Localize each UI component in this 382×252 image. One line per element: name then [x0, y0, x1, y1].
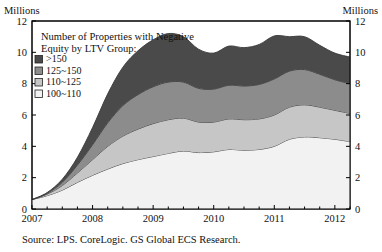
legend-label-125-150: 125~150 — [46, 65, 81, 76]
x-tick-label: 2011 — [264, 213, 285, 224]
legend-label-100-110: 100~110 — [46, 88, 81, 99]
legend-swatch--150 — [35, 56, 43, 64]
y-tick-label-right: 6 — [355, 110, 360, 121]
x-tick-label: 2010 — [203, 213, 224, 224]
y-tick-label-left: 12 — [17, 16, 28, 27]
legend-swatch-110-125 — [35, 79, 43, 87]
y-tick-label-right: 4 — [355, 141, 361, 152]
y-tick-label-right: 8 — [355, 78, 360, 89]
right-axis-unit-label: Millions — [342, 5, 378, 16]
x-tick-label: 2007 — [22, 213, 43, 224]
y-tick-label-left: 4 — [22, 141, 28, 152]
y-tick-label-right: 0 — [355, 204, 360, 215]
legend-label--150: >150 — [46, 53, 67, 64]
negative-equity-stacked-area-chart: Millions Millions 024681012 024681012 20… — [0, 0, 382, 252]
y-tick-label-left: 8 — [22, 78, 27, 89]
y-tick-label-left: 6 — [22, 110, 27, 121]
x-tick-label: 2009 — [143, 213, 164, 224]
source-note: Source: LPS. CoreLogic. GS Global ECS Re… — [22, 234, 240, 245]
legend-swatch-100-110 — [35, 90, 43, 98]
legend-swatch-125-150 — [35, 67, 43, 75]
y-tick-label-right: 10 — [355, 47, 366, 58]
y-tick-label-left: 10 — [17, 47, 28, 58]
y-tick-label-right: 12 — [355, 16, 366, 27]
legend-label-110-125: 110~125 — [46, 76, 81, 87]
legend-title-line-1: Number of Properties with Negative — [41, 31, 194, 42]
y-tick-label-left: 2 — [22, 172, 27, 183]
left-axis-unit-label: Millions — [4, 5, 40, 16]
x-tick-label: 2012 — [324, 213, 345, 224]
y-tick-label-right: 2 — [355, 172, 360, 183]
x-tick-label: 2008 — [82, 213, 103, 224]
